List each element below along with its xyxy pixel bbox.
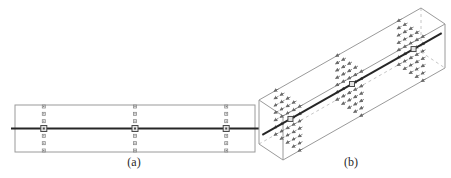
fiber-vector-arrow (409, 34, 413, 36)
fiber-vector-arrow (286, 141, 290, 143)
fiber-vector-arrow (336, 76, 340, 78)
fiber-vector-arrow (403, 67, 407, 69)
center-node-dot (225, 128, 227, 130)
fiber-point-dot (135, 143, 136, 144)
fiber-point-dot (226, 143, 227, 144)
fiber-vector-arrow (354, 95, 358, 97)
fiber-vector-arrow (342, 65, 346, 67)
fiber-vector-arrow (274, 89, 278, 91)
fiber-vector-arrow (354, 103, 358, 105)
fiber-vector-arrow (280, 108, 284, 110)
fiber-point-dot (226, 113, 227, 114)
fiber-vector-arrow (421, 57, 425, 59)
fiber-vector-arrow (274, 104, 278, 106)
fiber-vector-arrow (421, 79, 425, 81)
station-marker-column (41, 105, 47, 152)
fiber-vector-arrow (360, 92, 364, 94)
fiber-vector-arrow (415, 31, 419, 33)
fiber-vector-arrow (298, 127, 302, 129)
fiber-vector-arrow (286, 126, 290, 128)
fiber-vector-arrow (336, 54, 340, 56)
fiber-point-dot (135, 113, 136, 114)
panel-a-side-view (11, 105, 259, 152)
fiber-vector-arrow (415, 53, 419, 55)
center-node-square (411, 47, 416, 52)
fiber-vector-arrow (342, 95, 346, 97)
panel-b-isometric-view (259, 8, 445, 160)
fiber-vector-arrow (403, 38, 407, 40)
fiber-vector-arrow (421, 64, 425, 66)
beam-discretization-figure: (a) (b) (0, 0, 451, 178)
fiber-vector-arrow (397, 19, 401, 21)
fiber-vector-arrow (409, 27, 413, 29)
fiber-vector-arrow (421, 35, 425, 37)
fiber-point-dot (226, 150, 227, 151)
fiber-vector-arrow (415, 68, 419, 70)
fiber-vector-arrow (354, 73, 358, 75)
fiber-vector-arrow (298, 134, 302, 136)
fiber-vector-arrow (280, 100, 284, 102)
fiber-vector-arrow (409, 42, 413, 44)
fiber-point-dot (226, 135, 227, 136)
fiber-vector-arrow (298, 142, 302, 144)
fiber-vector-arrow (336, 98, 340, 100)
fiber-vector-arrow (360, 70, 364, 72)
fiber-vector-arrow (397, 63, 401, 65)
fiber-vector-arrow (286, 134, 290, 136)
center-node-square (288, 116, 293, 121)
fiber-point-dot (135, 121, 136, 122)
center-node-dot (134, 128, 136, 130)
fiber-vector-arrow (292, 145, 296, 147)
fiber-vector-arrow (292, 108, 296, 110)
fiber-vector-arrow (280, 137, 284, 139)
fiber-vector-arrow (342, 58, 346, 60)
fiber-vector-arrow (409, 56, 413, 58)
panel-a-label: (a) (110, 155, 158, 169)
fiber-vector-arrow (403, 23, 407, 25)
fiber-vector-arrow (280, 93, 284, 95)
fiber-vector-arrow (415, 75, 419, 77)
fiber-point-dot (135, 135, 136, 136)
fiber-vector-arrow (336, 69, 340, 71)
fiber-vector-arrow (397, 34, 401, 36)
fiber-vector-arrow (292, 101, 296, 103)
fiber-vector-arrow (348, 62, 352, 64)
fiber-vector-arrow (403, 30, 407, 32)
fiber-vector-arrow (292, 130, 296, 132)
fiber-vector-arrow (354, 88, 358, 90)
fiber-vector-arrow (397, 41, 401, 43)
fiber-vector-arrow (342, 73, 346, 75)
fiber-point-dot (43, 150, 44, 151)
fiber-vector-arrow (409, 71, 413, 73)
fiber-point-dot (135, 106, 136, 107)
fiber-point-dot (226, 121, 227, 122)
fiber-vector-arrow (354, 110, 358, 112)
center-node-square (350, 82, 355, 87)
fiber-vector-arrow (336, 61, 340, 63)
fiber-vector-arrow (348, 91, 352, 93)
station-marker-column (223, 105, 229, 152)
fiber-vector-arrow (360, 99, 364, 101)
fiber-point-dot (43, 135, 44, 136)
fiber-vector-arrow (360, 107, 364, 109)
fiber-vector-arrow (286, 97, 290, 99)
fiber-point-dot (43, 113, 44, 114)
fiber-vector-arrow (360, 114, 364, 116)
box-edge (259, 144, 283, 160)
fiber-vector-arrow (348, 106, 352, 108)
fiber-point-dot (43, 143, 44, 144)
box-edge (421, 8, 445, 24)
fiber-vector-arrow (348, 69, 352, 71)
fiber-point-dot (226, 106, 227, 107)
fiber-vector-arrow (286, 112, 290, 114)
fiber-vector-arrow (403, 60, 407, 62)
fiber-point-dot (135, 150, 136, 151)
center-node-dot (43, 128, 45, 130)
fiber-vector-arrow (421, 50, 425, 52)
fiber-vector-arrow (348, 99, 352, 101)
fiber-vector-arrow (298, 120, 302, 122)
fiber-vector-arrow (354, 66, 358, 68)
fiber-vector-arrow (409, 64, 413, 66)
figure-canvas (0, 0, 451, 178)
fiber-vector-arrow (292, 123, 296, 125)
